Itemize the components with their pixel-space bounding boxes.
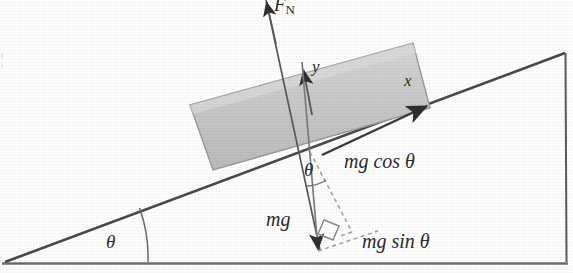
weight-label: mg bbox=[266, 209, 290, 229]
mg-sin-theta-label: mg sin θ bbox=[362, 231, 430, 251]
ramp-right-edge bbox=[566, 53, 567, 262]
block-angle-label: θ bbox=[304, 160, 313, 179]
diagram-canvas bbox=[0, 0, 573, 273]
x-axis-label: x bbox=[404, 72, 412, 89]
block-angle-arc bbox=[307, 180, 326, 186]
y-axis-label: y bbox=[312, 58, 320, 75]
component-closing-dashed-line bbox=[340, 232, 352, 236]
mg-cos-theta-label: mg cos θ bbox=[344, 151, 415, 171]
base-angle-label: θ bbox=[106, 232, 115, 251]
right-angle-marker bbox=[318, 220, 339, 240]
scan-artifact bbox=[1, 53, 3, 68]
base-angle-arc bbox=[140, 208, 149, 262]
normal-force-label: FN bbox=[274, 0, 295, 16]
inclined-plane-diagram: FN y x mg mg cos θ mg sin θ θ θ bbox=[0, 0, 573, 273]
